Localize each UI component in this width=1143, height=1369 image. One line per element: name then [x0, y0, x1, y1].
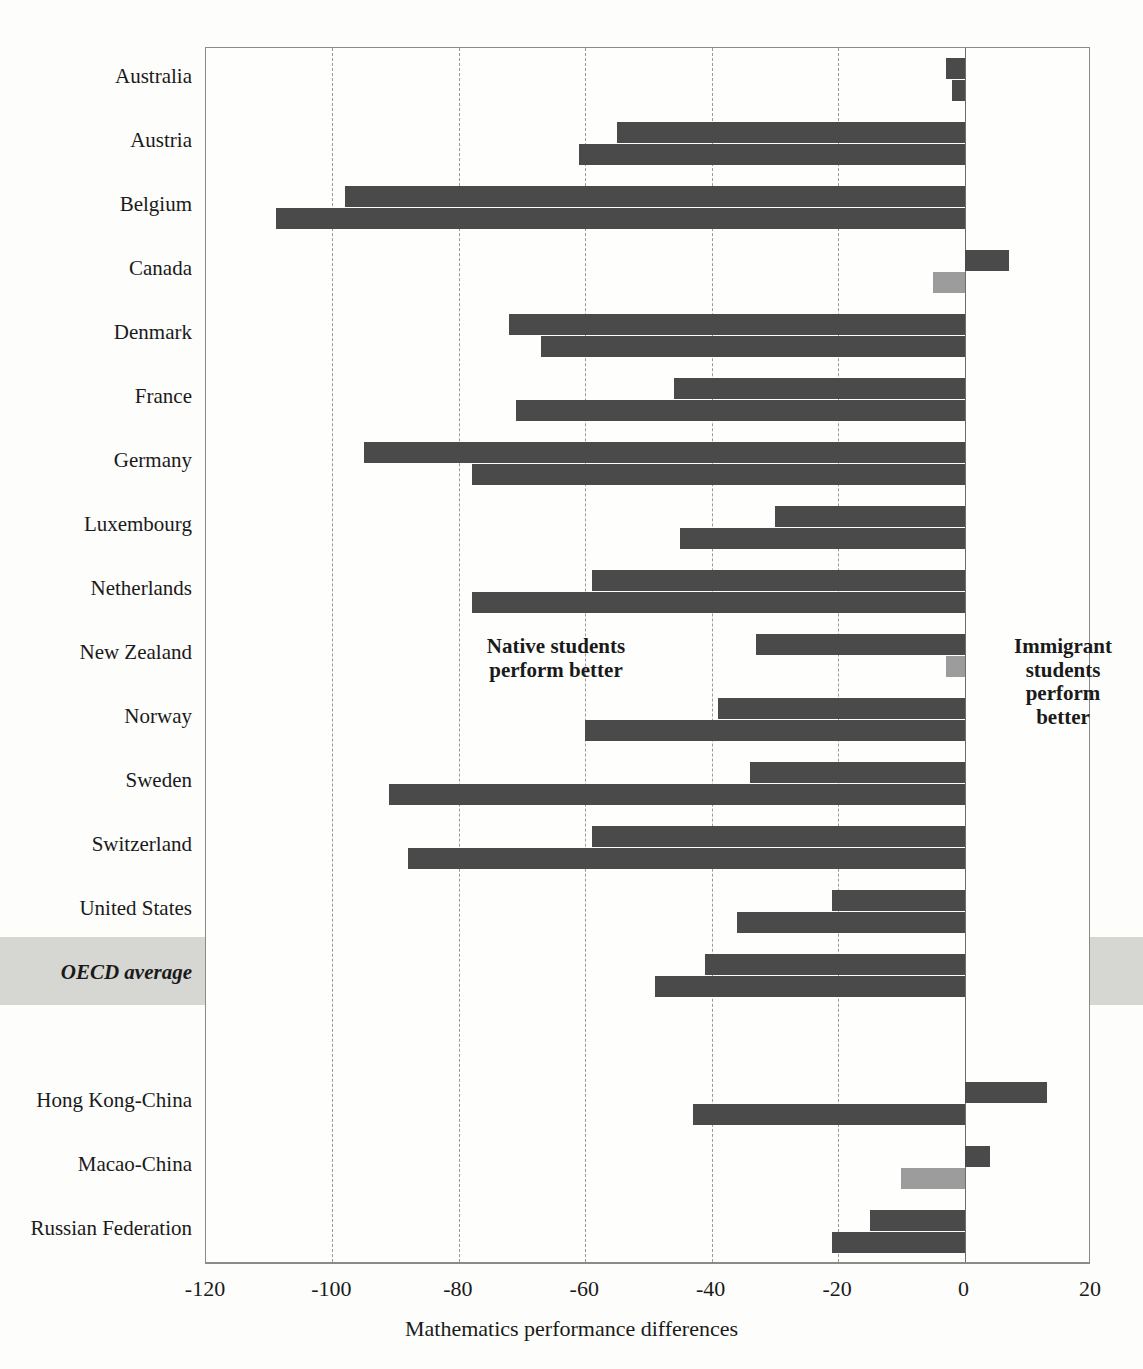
x-tick-label: -120 — [165, 1276, 245, 1302]
bar — [965, 1146, 990, 1167]
category-label: Australia — [0, 64, 192, 89]
bar — [509, 314, 964, 335]
category-label: Switzerland — [0, 832, 192, 857]
annotation-immigrant-better: Immigrant students perform better — [993, 635, 1133, 729]
gridline--20 — [838, 48, 839, 1262]
annotation-immigrant-line-2: students — [993, 659, 1133, 683]
x-tick-label: 20 — [1050, 1276, 1130, 1302]
bar — [946, 656, 965, 677]
bar — [693, 1104, 965, 1125]
annotation-native-better: Native students perform better — [431, 635, 681, 682]
category-label: Russian Federation — [0, 1216, 192, 1241]
bar — [680, 528, 964, 549]
bar — [655, 976, 965, 997]
category-label: Austria — [0, 128, 192, 153]
bar — [592, 570, 965, 591]
bar — [617, 122, 965, 143]
x-axis-title: Mathematics performance differences — [0, 1316, 1143, 1342]
zero-line — [965, 48, 966, 1262]
bar — [750, 762, 965, 783]
gridline--40 — [712, 48, 713, 1262]
category-label: OECD average — [0, 960, 192, 985]
bar — [756, 634, 965, 655]
category-label: Canada — [0, 256, 192, 281]
bar — [946, 58, 965, 79]
bar — [516, 400, 965, 421]
category-label: Hong Kong-China — [0, 1088, 192, 1113]
bar — [718, 698, 965, 719]
category-label: Sweden — [0, 768, 192, 793]
bar — [832, 890, 965, 911]
bar — [737, 912, 965, 933]
bar — [870, 1210, 965, 1231]
chart-figure: Mathematics performance differences Nati… — [0, 0, 1143, 1369]
bar — [472, 464, 965, 485]
annotation-native-line-2: perform better — [431, 659, 681, 683]
category-label: Luxembourg — [0, 512, 192, 537]
category-label: Macao-China — [0, 1152, 192, 1177]
bar — [472, 592, 965, 613]
bar — [345, 186, 965, 207]
category-label: Netherlands — [0, 576, 192, 601]
category-label: United States — [0, 896, 192, 921]
annotation-immigrant-line-1: Immigrant — [993, 635, 1133, 659]
annotation-native-line-1: Native students — [431, 635, 681, 659]
category-label: Germany — [0, 448, 192, 473]
x-tick-label: -100 — [291, 1276, 371, 1302]
bar — [585, 720, 964, 741]
x-tick-label: -60 — [544, 1276, 624, 1302]
bar — [775, 506, 965, 527]
bar — [389, 784, 964, 805]
category-label: France — [0, 384, 192, 409]
bar — [965, 250, 1009, 271]
bar — [592, 826, 965, 847]
bar — [276, 208, 965, 229]
category-label: New Zealand — [0, 640, 192, 665]
bar — [965, 1082, 1047, 1103]
category-label: Norway — [0, 704, 192, 729]
x-tick-label: -20 — [797, 1276, 877, 1302]
category-label: Denmark — [0, 320, 192, 345]
gridline--100 — [332, 48, 333, 1262]
x-axis-line — [205, 1263, 1090, 1264]
bar — [674, 378, 965, 399]
bar — [832, 1232, 965, 1253]
annotation-immigrant-line-4: better — [993, 706, 1133, 730]
category-label: Belgium — [0, 192, 192, 217]
bar — [952, 80, 965, 101]
bar — [364, 442, 965, 463]
bar — [541, 336, 965, 357]
bar — [901, 1168, 964, 1189]
bar — [933, 272, 965, 293]
x-tick-label: 0 — [924, 1276, 1004, 1302]
bar — [705, 954, 964, 975]
annotation-immigrant-line-3: perform — [993, 682, 1133, 706]
bar — [579, 144, 965, 165]
x-tick-label: -40 — [671, 1276, 751, 1302]
bar — [408, 848, 964, 869]
x-tick-label: -80 — [418, 1276, 498, 1302]
